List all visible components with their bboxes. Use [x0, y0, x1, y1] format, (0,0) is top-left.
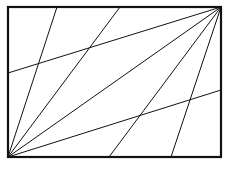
diagram-canvas — [0, 0, 227, 169]
background — [0, 0, 227, 169]
